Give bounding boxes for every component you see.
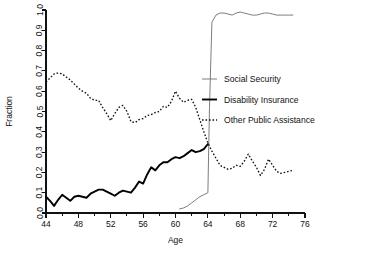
legend-label-0: Social Security: [224, 74, 282, 84]
x-tick-label: 56: [138, 219, 148, 229]
data-series: [46, 12, 293, 209]
series-line-social-security: [180, 12, 293, 209]
y-axis-title: Fraction: [4, 96, 14, 127]
y-tick-label: 0.2: [35, 166, 45, 178]
x-tick-label: 44: [41, 219, 51, 229]
chart-legend: Social SecurityDisability InsuranceOther…: [202, 74, 315, 125]
x-tick-label: 76: [300, 219, 310, 229]
y-tick-label: 0.8: [35, 44, 45, 56]
y-tick-label: 0.6: [35, 85, 45, 97]
x-tick-label: 48: [74, 219, 84, 229]
axes: [46, 10, 305, 213]
x-axis-title: Age: [168, 235, 183, 245]
legend-label-1: Disability Insurance: [224, 95, 299, 105]
x-tick-label: 72: [268, 219, 278, 229]
y-tick-label: 0.9: [35, 24, 45, 36]
x-tick-label: 60: [171, 219, 181, 229]
y-tick-label: 0.5: [35, 105, 45, 117]
x-tick-label: 64: [203, 219, 213, 229]
y-tick-label: 1.0: [35, 4, 45, 16]
chart-figure: 0.00.10.20.30.40.50.60.70.80.91.04448525…: [0, 0, 373, 255]
y-tick-label: 0.4: [35, 126, 45, 138]
y-tick-label: 0.1: [35, 187, 45, 199]
y-tick-label: 0.7: [35, 65, 45, 77]
axis-ticks: [42, 10, 305, 218]
y-tick-label: 0.3: [35, 146, 45, 158]
x-tick-label: 52: [106, 219, 116, 229]
legend-label-2: Other Public Assistance: [224, 115, 315, 125]
series-line-disability-insurance: [46, 144, 208, 206]
y-tick-label: 0.0: [35, 207, 45, 219]
chart-plot-area: 0.00.10.20.30.40.50.60.70.80.91.04448525…: [0, 0, 373, 255]
x-tick-label: 68: [236, 219, 246, 229]
